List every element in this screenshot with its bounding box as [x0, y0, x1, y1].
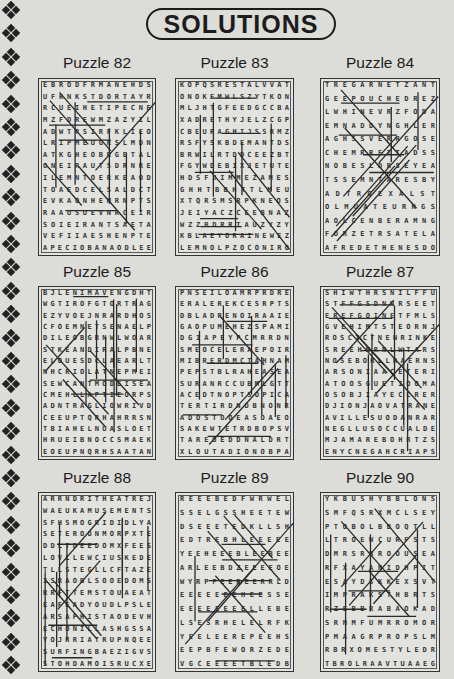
answer-line: [54, 581, 101, 635]
answer-line: [336, 300, 394, 363]
answer-line: [337, 318, 388, 373]
answer-lines: [176, 287, 293, 459]
word-search-grid: PNSEILOAMRPRDREERALEREKCESRPTSDBLADRENOI…: [175, 286, 294, 460]
answer-line: [369, 571, 410, 617]
diamond-ornament-icon: [3, 166, 19, 182]
puzzle-label: Puzzle 90: [310, 469, 450, 487]
diamond-ornament-icon: [3, 423, 19, 439]
word-search-grid: REEEBEDFWRWELSSELGSSHEETEWDSEEETEDKLLSHE…: [175, 492, 294, 672]
answer-line: [220, 316, 264, 365]
puzzle-label: Puzzle 88: [27, 469, 167, 487]
answer-line: [45, 579, 97, 639]
diamond-ornament-icon: [3, 447, 19, 463]
answer-line: [229, 171, 289, 250]
answer-line: [345, 128, 417, 208]
diamond-ornament-icon: [3, 634, 19, 650]
answer-lines: [39, 79, 155, 255]
diamond-ornament-icon: [3, 25, 19, 41]
diamond-ornament-icon: [3, 189, 19, 205]
puzzle-label: Puzzle 89: [165, 469, 305, 487]
diamond-ornament-icon: [3, 96, 19, 112]
answer-line: [95, 97, 155, 171]
diamond-ornament-icon: [3, 142, 19, 158]
answer-line: [238, 152, 289, 217]
answer-line: [208, 531, 243, 571]
diamond-ornament-icon: [3, 564, 19, 580]
answer-lines: [321, 79, 439, 255]
diamond-ornament-icon: [3, 213, 19, 229]
diamond-ornament-icon: [3, 49, 19, 65]
diamond-ornament-icon: [3, 306, 19, 322]
diamond-ornament-icon: [3, 470, 19, 486]
diamond-ornament-icon: [3, 610, 19, 626]
diamond-ornament-icon: [3, 353, 19, 369]
answer-line: [332, 307, 395, 376]
diamond-ornament-icon: [3, 493, 19, 509]
answer-line: [59, 92, 110, 150]
word-search-grid: KOPQSRESTALVVATONOKFMWLSZYTKONMLJHTGFEED…: [175, 78, 294, 256]
word-search-grid: EBRODFRMANEHDSUFRNKSTDORTAYRRCUEIHETIPEC…: [38, 78, 156, 256]
answer-line: [185, 582, 240, 644]
diamond-ornament-icon: [3, 2, 19, 18]
answer-line: [331, 166, 394, 237]
puzzle-label: Puzzle 84: [310, 54, 450, 72]
diamond-ornament-icon: [3, 283, 19, 299]
word-search-grid: SHIWTHRSNILFFUSTFFGSDNNRSEETEREFGOINETFM…: [320, 286, 440, 460]
word-search-grid: BJLENIMAVENGDHTWGTIROFGTORTRAGEZYVOEJNRA…: [38, 286, 156, 460]
solutions-heading: SOLUTIONS: [146, 8, 336, 40]
word-search-grid: ARRNDRITHEATREJWAEUKAMUSEMENTSSFHSMOGRID…: [38, 492, 156, 672]
answer-line: [349, 522, 423, 605]
answer-line: [45, 164, 82, 206]
word-search-grid: YKBUSHYBBLONSSMFQSRXMCLSEYPTOBOLBBOQTLLL…: [320, 492, 440, 672]
puzzle-label: Puzzle 85: [27, 263, 167, 281]
diamond-ornament-icon: [3, 330, 19, 346]
answer-line: [373, 555, 416, 603]
diamond-ornament-icon: [3, 540, 19, 556]
diamond-ornament-icon: [3, 517, 19, 533]
answer-line: [341, 541, 381, 586]
answer-line: [209, 368, 278, 444]
answer-lines: [39, 287, 155, 459]
answer-line: [45, 328, 84, 372]
answer-lines: [321, 493, 439, 671]
diamond-ornament-icon: [3, 587, 19, 603]
answer-line: [58, 561, 100, 610]
puzzle-label: Puzzle 83: [165, 54, 305, 72]
puzzle-label: Puzzle 87: [310, 263, 450, 281]
answer-lines: [176, 493, 293, 671]
diamond-ornament-icon: [3, 259, 19, 275]
puzzle-label: Puzzle 86: [165, 263, 305, 281]
puzzle-label: Puzzle 82: [27, 54, 167, 72]
diamond-ornament-icon: [3, 400, 19, 416]
diamond-ornament-icon: [3, 236, 19, 252]
page-title: SOLUTIONS: [164, 10, 319, 39]
word-search-grid: TREGARNETZANTGEEPOUCHEDREZLWHINEVRZFODAE…: [320, 78, 440, 256]
answer-lines: [321, 287, 439, 459]
diamond-ornament-icon: [3, 72, 19, 88]
diamond-ornament-icon: [3, 376, 19, 392]
diamond-border: [0, 0, 22, 679]
answer-line: [235, 515, 273, 558]
answer-lines: [39, 493, 155, 671]
diamond-ornament-icon: [3, 657, 19, 673]
diamond-ornament-icon: [3, 119, 19, 135]
answer-lines: [176, 79, 293, 255]
